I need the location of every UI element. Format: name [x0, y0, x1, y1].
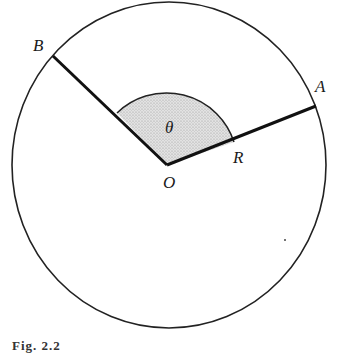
shaded-sector	[117, 93, 234, 165]
label-a: A	[314, 77, 326, 96]
label-r: R	[232, 148, 244, 167]
label-b: B	[33, 36, 44, 55]
scan-speck	[284, 239, 286, 241]
label-o: O	[163, 173, 175, 192]
figure-caption: Fig. 2.2	[12, 338, 61, 354]
label-theta: θ	[165, 118, 173, 137]
